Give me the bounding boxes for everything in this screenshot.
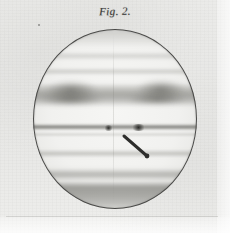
belt-equatorial-band — [33, 124, 197, 130]
ink-speck-mark — [38, 24, 40, 26]
belt-north-temperate-belt — [33, 68, 197, 75]
page-margin-right — [217, 0, 230, 233]
central-meridian-streak — [113, 33, 114, 206]
planetary-disk — [33, 29, 197, 209]
belt-south-temperate-belt — [33, 150, 197, 158]
belt-equatorial-band-secondary — [33, 133, 197, 137]
belt-south-south-temperate-belt — [33, 169, 197, 181]
belt-south-polar-region — [33, 184, 197, 209]
figure-plate: Fig. 2. — [0, 0, 230, 233]
disk-surface — [33, 29, 197, 209]
belt-north-north-temperate-belt — [33, 52, 197, 60]
equatorial-condensation-left — [104, 125, 114, 131]
page-margin-bottom — [0, 217, 230, 233]
belt-north-polar-region — [33, 29, 197, 45]
page-margin-rule — [6, 216, 218, 217]
equatorial-condensation-right — [131, 124, 146, 131]
